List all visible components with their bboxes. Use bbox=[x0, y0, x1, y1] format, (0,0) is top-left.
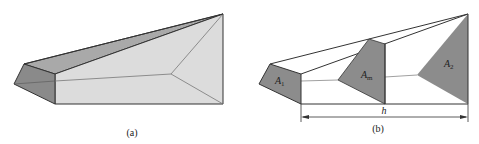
caption-b: (b) bbox=[372, 123, 384, 135]
arrow-left-icon bbox=[301, 115, 309, 119]
frustum-diagram: (a) A1 Am A2 h (b) bbox=[0, 0, 479, 144]
arrow-right-icon bbox=[460, 115, 468, 119]
label-h: h bbox=[382, 105, 387, 116]
inner-edge bbox=[301, 80, 338, 81]
height-dimension: h bbox=[301, 104, 468, 122]
figure-a-solid bbox=[14, 14, 223, 104]
section-a2 bbox=[417, 14, 468, 104]
caption-a: (a) bbox=[126, 127, 137, 139]
inner-edge bbox=[385, 75, 417, 77]
figure-b-solid: A1 Am A2 bbox=[259, 14, 468, 104]
